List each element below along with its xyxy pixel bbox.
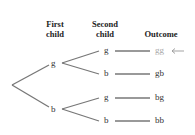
node-second-g-top: g — [104, 45, 109, 55]
outcome-gg: gg — [155, 45, 164, 55]
branch-root-to-b — [12, 85, 49, 107]
outcome-bb: bb — [155, 115, 164, 125]
branch-b-to-g — [62, 98, 99, 109]
arrow-left-icon — [172, 49, 184, 54]
outcome-bg: bg — [155, 92, 164, 102]
outcome-gb: gb — [155, 68, 164, 78]
branch-b-to-b — [62, 109, 99, 121]
branch-g-to-b — [62, 63, 99, 74]
node-second-b-top: b — [104, 68, 109, 78]
branch-g-to-g — [62, 51, 99, 63]
node-second-g-bottom: g — [104, 92, 109, 102]
node-first-g: g — [51, 58, 56, 68]
tree-lines — [0, 0, 195, 135]
branch-root-to-g — [12, 65, 49, 85]
node-first-b: b — [51, 104, 56, 114]
node-second-b-bottom: b — [104, 115, 109, 125]
